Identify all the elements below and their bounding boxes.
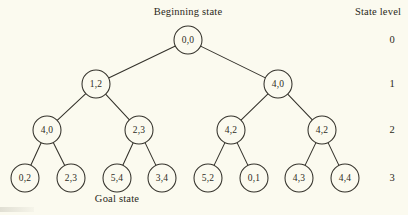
node-label: 4,0	[41, 125, 53, 135]
node-label: 4,0	[272, 79, 284, 89]
tree-edge	[53, 143, 64, 166]
tree-edge	[57, 94, 86, 121]
node-label: 1,2	[90, 79, 102, 89]
node-label: 0,0	[182, 35, 194, 45]
tree-edge	[328, 143, 339, 166]
tree-node[interactable]: 1,2	[82, 70, 110, 98]
tree-edge	[241, 94, 268, 120]
tree-node[interactable]: 0,1	[240, 164, 268, 192]
node-label: 4,3	[293, 173, 305, 183]
tree-edge	[214, 143, 225, 166]
tree-node[interactable]: 0,2	[11, 164, 39, 192]
node-label: 0,2	[19, 173, 31, 183]
tree-node[interactable]: 4,4	[331, 164, 359, 192]
tree-edge	[106, 94, 130, 120]
page-edge-artifact	[0, 207, 34, 212]
tree-node[interactable]: 4,2	[308, 116, 336, 144]
tree-edge	[123, 143, 133, 166]
tree-edge	[109, 46, 176, 78]
node-label: 2,3	[65, 173, 77, 183]
tree-node[interactable]: 0,0	[174, 26, 202, 54]
state-space-tree-figure: 0,01,24,04,02,34,24,20,22,35,43,45,20,14…	[0, 0, 408, 215]
beginning-state-label: Beginning state	[154, 6, 223, 18]
tree-edge	[31, 143, 41, 166]
state-level-number: 2	[389, 124, 394, 136]
tree-node[interactable]: 2,3	[125, 116, 153, 144]
state-level-number: 3	[389, 172, 394, 184]
node-layer: 0,01,24,04,02,34,24,20,22,35,43,45,20,14…	[11, 26, 359, 192]
tree-node[interactable]: 4,0	[264, 70, 292, 98]
node-label: 3,4	[156, 173, 168, 183]
goal-state-label: Goal state	[95, 193, 139, 205]
tree-edge	[145, 143, 156, 166]
node-label: 5,2	[202, 173, 214, 183]
node-label: 5,4	[111, 173, 123, 183]
node-label: 0,1	[248, 173, 260, 183]
tree-node[interactable]: 4,0	[33, 116, 61, 144]
tree-edge	[237, 143, 248, 166]
tree-edge	[305, 143, 316, 166]
node-label: 4,2	[225, 125, 237, 135]
node-label: 2,3	[133, 125, 145, 135]
tree-edge	[201, 46, 266, 78]
node-label: 4,2	[316, 125, 328, 135]
state-level-number: 1	[389, 78, 394, 90]
tree-node[interactable]: 3,4	[148, 164, 176, 192]
node-label: 4,4	[339, 173, 351, 183]
edge-layer	[31, 46, 339, 165]
tree-edge	[288, 94, 313, 120]
state-level-number: 0	[389, 34, 394, 46]
state-level-header: State level	[355, 6, 401, 18]
tree-node[interactable]: 2,3	[57, 164, 85, 192]
tree-diagram: 0,01,24,04,02,34,24,20,22,35,43,45,20,14…	[0, 0, 408, 215]
tree-node[interactable]: 5,4	[103, 164, 131, 192]
tree-node[interactable]: 4,3	[285, 164, 313, 192]
tree-node[interactable]: 5,2	[194, 164, 222, 192]
tree-node[interactable]: 4,2	[217, 116, 245, 144]
